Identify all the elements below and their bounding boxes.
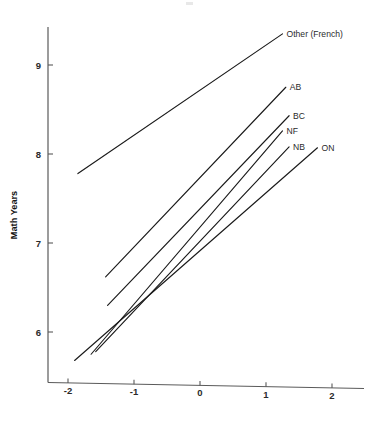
y-tick-label-7: 7 xyxy=(36,238,41,249)
x-tick-label--2: -2 xyxy=(64,385,72,396)
ticks-group: 6789-2-1012 xyxy=(36,60,335,401)
x-tick-label-2: 2 xyxy=(329,390,334,401)
series-label-on: ON xyxy=(321,143,334,153)
y-tick-label-6: 6 xyxy=(36,327,41,338)
series-label-ab: AB xyxy=(290,82,302,92)
chart-canvas: 6789-2-1012 Other (French)ABBCNFNBON Mat… xyxy=(0,0,371,433)
axis-title-group: Math Years xyxy=(9,191,19,239)
axes-group xyxy=(48,27,364,389)
scan-artifact xyxy=(186,2,193,5)
x-tick-label-0: 0 xyxy=(197,387,202,398)
series-label-nf: NF xyxy=(287,126,298,136)
series-line-nb xyxy=(96,147,289,352)
x-axis-line xyxy=(48,383,364,389)
y-tick-label-8: 8 xyxy=(36,149,41,160)
math-years-line-chart: 6789-2-1012 Other (French)ABBCNFNBON Mat… xyxy=(0,0,371,433)
series-label-nb: NB xyxy=(293,142,305,152)
series-line-bc xyxy=(108,116,290,306)
series-line-on xyxy=(75,148,318,361)
series-line-ab xyxy=(106,87,286,277)
series-line-other-french xyxy=(78,34,283,174)
x-tick-label-1: 1 xyxy=(263,389,269,400)
series-label-bc: BC xyxy=(293,111,305,121)
series-labels-group: Other (French)ABBCNFNBON xyxy=(287,29,343,153)
series-label-other-french: Other (French) xyxy=(287,29,343,39)
series-group xyxy=(75,34,318,361)
x-tick-label--1: -1 xyxy=(130,386,139,397)
y-axis-title: Math Years xyxy=(9,191,19,239)
y-tick-label-9: 9 xyxy=(36,60,41,71)
